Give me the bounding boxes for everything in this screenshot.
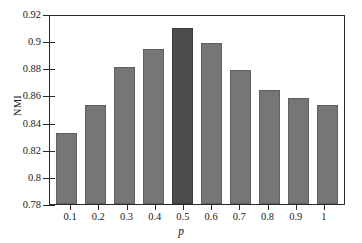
x-axis-tick [239, 205, 240, 210]
y-axis-tick [43, 96, 50, 97]
bar [114, 67, 135, 204]
x-axis-tick [211, 205, 212, 210]
y-axis-tick-label: 0.88 [1, 64, 41, 75]
x-axis-tick [324, 205, 325, 210]
y-axis-tick-inner [50, 42, 55, 43]
y-axis-tick-label: 0.82 [1, 145, 41, 156]
bar [201, 43, 222, 205]
y-axis-tick [43, 124, 50, 125]
y-axis-tick [43, 205, 50, 206]
bar [56, 133, 77, 204]
y-axis-tick-inner [50, 96, 55, 97]
y-axis-tick [43, 15, 50, 16]
y-axis-tick-label: 0.78 [1, 200, 41, 211]
y-axis-tick-inner [50, 178, 55, 179]
bar [172, 28, 193, 204]
bars-layer [50, 16, 344, 204]
x-axis-tick [155, 205, 156, 210]
y-axis-tick [43, 178, 50, 179]
bar [317, 105, 338, 204]
y-axis-tick-label: 0.9 [1, 37, 41, 48]
bar [85, 105, 106, 204]
x-axis-title: p [0, 225, 362, 237]
bar [230, 70, 251, 204]
x-axis-tick [268, 205, 269, 210]
y-axis-tick [43, 42, 50, 43]
bar [143, 49, 164, 204]
y-axis-tick [43, 151, 50, 152]
y-axis-title: NMI [12, 76, 23, 136]
y-axis-tick-inner [50, 15, 55, 16]
x-axis-tick [98, 205, 99, 210]
y-axis-tick-label: 0.92 [1, 10, 41, 21]
x-axis-tick [70, 205, 71, 210]
y-axis-tick-inner [50, 69, 55, 70]
y-axis-tick [43, 69, 50, 70]
plot-area [49, 15, 345, 205]
x-axis-tick [183, 205, 184, 210]
nmi-vs-p-bar-chart: 0.780.80.820.840.860.880.90.92 NMI p 0.1… [0, 0, 362, 243]
bar [288, 98, 309, 204]
bar [259, 90, 280, 204]
x-axis-tick [296, 205, 297, 210]
y-axis-tick-label: 0.8 [1, 173, 41, 184]
x-axis-tick [127, 205, 128, 210]
x-axis-tick-label: 1 [304, 212, 344, 223]
y-axis-tick-inner [50, 205, 55, 206]
y-axis-tick-inner [50, 151, 55, 152]
y-axis-tick-inner [50, 124, 55, 125]
